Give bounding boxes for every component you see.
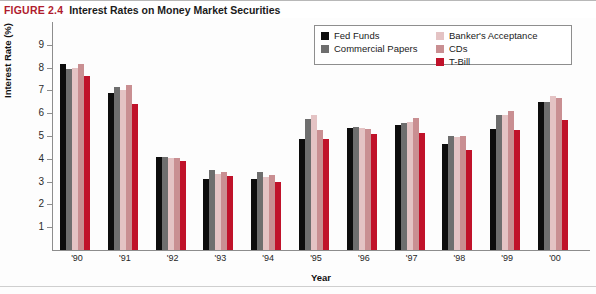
- x-tick-label: '92: [152, 253, 194, 263]
- y-axis-line: [52, 22, 53, 251]
- legend-swatch-icon: [321, 45, 329, 53]
- y-tick-label: 8: [38, 63, 44, 73]
- legend-label: CDs: [449, 44, 467, 54]
- y-tick-label: 3: [38, 177, 44, 187]
- x-tick-label: '96: [343, 253, 385, 263]
- x-tick-label: '90: [56, 253, 98, 263]
- bar: [227, 176, 233, 250]
- y-tick-label: 5: [38, 131, 44, 141]
- bar: [514, 130, 520, 250]
- figure-number: FIGURE 2.4: [4, 4, 63, 16]
- bar: [562, 120, 568, 250]
- y-tick: 8: [47, 68, 52, 69]
- x-tick-label: '98: [438, 253, 480, 263]
- x-tick-label: '00: [534, 253, 576, 263]
- bar: [323, 139, 329, 250]
- legend-column-2: Banker's AcceptanceCDsT-Bill: [436, 30, 537, 69]
- x-tick-label: '99: [486, 253, 528, 263]
- bar-group: [203, 22, 237, 250]
- legend-column-1: Fed FundsCommercial Papers: [321, 30, 417, 56]
- bar: [466, 150, 472, 250]
- figure-title-bar: FIGURE 2.4 Interest Rates on Money Marke…: [0, 0, 596, 18]
- bar: [371, 134, 377, 250]
- legend-label: Fed Funds: [334, 31, 379, 41]
- figure-container: FIGURE 2.4 Interest Rates on Money Marke…: [0, 0, 596, 294]
- x-tick-label: '95: [295, 253, 337, 263]
- y-tick: 5: [47, 136, 52, 137]
- chart-legend: Fed FundsCommercial Papers Banker's Acce…: [314, 25, 572, 65]
- bar: [180, 161, 186, 250]
- legend-item: T-Bill: [436, 56, 537, 67]
- y-tick: 7: [47, 90, 52, 91]
- legend-item: Fed Funds: [321, 30, 417, 41]
- bar: [84, 76, 90, 250]
- legend-item: Banker's Acceptance: [436, 30, 537, 41]
- legend-swatch-icon: [321, 32, 329, 40]
- x-tick-label: '93: [199, 253, 241, 263]
- bar-group: [60, 22, 94, 250]
- bar: [132, 104, 138, 250]
- y-tick: 3: [47, 182, 52, 183]
- y-tick: 9: [47, 45, 52, 46]
- legend-swatch-icon: [436, 32, 444, 40]
- bar-group: [251, 22, 285, 250]
- legend-item: Commercial Papers: [321, 43, 417, 54]
- legend-label: Banker's Acceptance: [449, 31, 537, 41]
- y-tick-label: 9: [38, 40, 44, 50]
- figure-title: Interest Rates on Money Market Securitie…: [69, 4, 280, 16]
- legend-swatch-icon: [436, 58, 444, 66]
- bar: [275, 182, 281, 250]
- y-tick-label: 2: [38, 199, 44, 209]
- legend-item: CDs: [436, 43, 537, 54]
- x-tick-label: '91: [104, 253, 146, 263]
- legend-label: T-Bill: [449, 57, 470, 67]
- x-axis-line: [52, 250, 590, 251]
- y-axis-title: Interest Rate (%): [2, 23, 13, 98]
- y-tick: 6: [47, 113, 52, 114]
- y-tick-label: 4: [38, 154, 44, 164]
- x-tick-label: '94: [247, 253, 289, 263]
- y-tick: 2: [47, 204, 52, 205]
- bar-group: [108, 22, 142, 250]
- y-tick-label: 1: [38, 222, 44, 232]
- bar-group: [156, 22, 190, 250]
- bar: [419, 133, 425, 250]
- y-tick: 4: [47, 159, 52, 160]
- legend-swatch-icon: [436, 45, 444, 53]
- y-tick-label: 7: [38, 85, 44, 95]
- legend-label: Commercial Papers: [334, 44, 417, 54]
- x-tick-label: '97: [391, 253, 433, 263]
- y-tick-label: 6: [38, 108, 44, 118]
- x-axis-title: Year: [52, 272, 590, 283]
- footer-divider: [0, 286, 596, 287]
- y-tick: 1: [47, 227, 52, 228]
